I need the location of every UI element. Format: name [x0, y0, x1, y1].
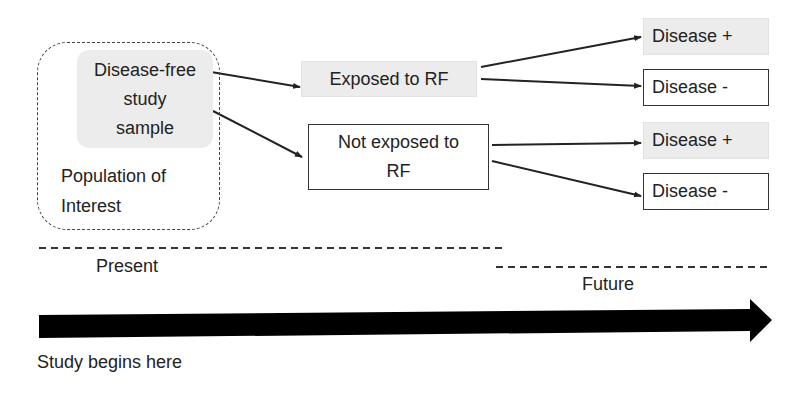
outcome-exposed-disease-positive: Disease + [643, 18, 769, 55]
arrow-sample-to-exposed [211, 72, 300, 87]
exposed-label: Exposed to RF [329, 69, 448, 90]
arrow-exposed-to-disease-neg [481, 79, 641, 86]
present-label: Present [96, 256, 158, 277]
arrow-exposed-to-disease-pos [481, 37, 641, 67]
arrow-not-exposed-to-disease-pos [492, 143, 641, 145]
timeline-arrow [39, 299, 772, 342]
outcome-label: Disease + [652, 26, 733, 47]
arrow-not-exposed-to-disease-neg [492, 161, 641, 196]
population-label-line-1: Population of [61, 161, 166, 191]
population-label-line-2: Interest [61, 191, 166, 221]
outcome-not-exposed-disease-positive: Disease + [643, 122, 769, 159]
study-begins-label: Study begins here [37, 352, 182, 373]
sample-label-line-3: sample [116, 114, 174, 143]
population-label: Population of Interest [61, 161, 166, 221]
disease-free-sample-box: Disease-free study sample [77, 50, 213, 148]
outcome-label: Disease - [652, 77, 728, 98]
arrow-sample-to-not-exposed [213, 111, 302, 157]
not-exposed-to-rf-box: Not exposed to RF [308, 124, 489, 190]
exposed-to-rf-box: Exposed to RF [301, 61, 477, 97]
not-exposed-label-line-1: Not exposed to [338, 128, 459, 157]
outcome-not-exposed-disease-negative: Disease - [643, 173, 769, 210]
outcome-exposed-disease-negative: Disease - [643, 69, 769, 106]
future-label: Future [582, 274, 634, 295]
outcome-label: Disease - [652, 181, 728, 202]
sample-label-line-1: Disease-free [94, 56, 196, 85]
outcome-label: Disease + [652, 130, 733, 151]
sample-label-line-2: study [123, 85, 166, 114]
not-exposed-label-line-2: RF [387, 157, 411, 186]
